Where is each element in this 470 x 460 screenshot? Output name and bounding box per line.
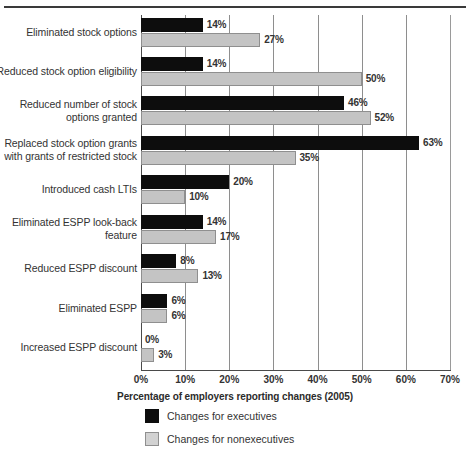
category-label: Reduced number of stock options granted (0, 98, 137, 124)
bar-nonexec (141, 33, 260, 47)
bar-group: 14%50% (141, 54, 450, 93)
bar-exec (141, 175, 229, 189)
category-label: Replaced stock option grants with grants… (0, 137, 137, 163)
bar-group: 20%10% (141, 173, 450, 212)
bar-value-label: 13% (202, 269, 221, 283)
bar-nonexec (141, 230, 216, 244)
category-label: Reduced stock option eligibility (0, 65, 137, 78)
bar-group: 14%17% (141, 212, 450, 251)
bar-nonexec (141, 72, 362, 86)
bar-value-label: 8% (180, 254, 194, 268)
bar-value-label: 20% (233, 175, 252, 189)
bar-group: 14%27% (141, 15, 450, 54)
x-tick-30: 30% (263, 374, 283, 385)
category-label: Eliminated ESPP look-back feature (0, 216, 137, 242)
bar-value-label: 17% (220, 230, 239, 244)
category-label: Reduced ESPP discount (0, 262, 137, 275)
bar-value-label: 3% (158, 348, 172, 362)
legend-label: Changes for nonexecutives (167, 432, 294, 446)
bar-exec (141, 18, 203, 32)
chart-container: 14%27%14%50%46%52%63%35%20%10%14%17%8%13… (0, 0, 470, 460)
category-label: Eliminated ESPP (0, 302, 137, 315)
bar-value-label: 10% (189, 190, 208, 204)
bar-group: 8%13% (141, 252, 450, 291)
bar-group: 46%52% (141, 94, 450, 133)
category-label: Increased ESPP discount (0, 341, 137, 354)
x-tick-40: 40% (308, 374, 328, 385)
bar-nonexec (141, 309, 167, 323)
bar-value-label: 14% (207, 18, 226, 32)
bar-group: 63%35% (141, 133, 450, 172)
bar-value-label: 35% (300, 151, 319, 165)
category-label: Eliminated stock options (0, 26, 137, 39)
bar-value-label: 6% (171, 309, 185, 323)
legend-swatch-icon (145, 409, 159, 423)
bar-exec (141, 96, 344, 110)
bar-group: 6%6% (141, 291, 450, 330)
bar-value-label: 52% (375, 111, 394, 125)
x-tick-20: 20% (219, 374, 239, 385)
bar-value-label: 27% (264, 33, 283, 47)
bar-nonexec (141, 269, 198, 283)
category-label: Introduced cash LTIs (0, 183, 137, 196)
bar-exec (141, 136, 419, 150)
plot-right-border (450, 15, 451, 370)
bar-nonexec (141, 111, 371, 125)
bar-value-label: 50% (366, 72, 385, 86)
bar-exec (141, 57, 203, 71)
bar-exec (141, 215, 203, 229)
bar-value-label: 6% (171, 294, 185, 308)
top-divider-rule (4, 6, 466, 8)
bar-value-label: 14% (207, 215, 226, 229)
bar-nonexec (141, 190, 185, 204)
bar-group: 0%3% (141, 331, 450, 370)
x-tick-10: 10% (175, 374, 195, 385)
legend-label: Changes for executives (167, 409, 277, 423)
bar-value-label: 14% (207, 57, 226, 71)
bar-nonexec (141, 151, 296, 165)
bar-exec (141, 254, 176, 268)
bar-value-label: 0% (145, 333, 159, 347)
x-tick-60: 60% (396, 374, 416, 385)
x-tick-0: 0% (134, 374, 148, 385)
bar-value-label: 46% (348, 96, 367, 110)
legend-swatch-icon (145, 432, 159, 446)
bar-exec (141, 294, 167, 308)
x-axis-title: Percentage of employers reporting change… (0, 391, 470, 402)
x-tick-70: 70% (440, 374, 460, 385)
x-tick-50: 50% (352, 374, 372, 385)
bar-nonexec (141, 348, 154, 362)
bar-value-label: 63% (423, 136, 442, 150)
